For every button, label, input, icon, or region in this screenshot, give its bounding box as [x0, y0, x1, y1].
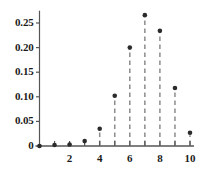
y-tick-label: 0	[28, 140, 33, 151]
data-point	[52, 143, 57, 148]
data-point	[97, 126, 102, 131]
y-tick-label: 0.10	[15, 91, 33, 102]
data-point	[37, 144, 42, 149]
x-tick-label: 10	[175, 153, 203, 164]
data-point	[188, 130, 193, 135]
data-point	[128, 45, 133, 50]
x-tick-label: 8	[145, 153, 175, 164]
data-point	[143, 13, 148, 18]
y-tick-label: 0.25	[15, 17, 33, 28]
data-point	[112, 94, 117, 99]
data-point	[173, 86, 178, 91]
data-point	[158, 29, 163, 34]
x-tick-label: 6	[115, 153, 145, 164]
probability-stem-chart: 00.050.100.150.200.25 246810	[0, 0, 203, 172]
x-tick-label: 4	[85, 153, 115, 164]
x-tick-label: 2	[55, 153, 85, 164]
data-point	[82, 139, 87, 144]
data-point	[67, 142, 72, 147]
stem-lines	[100, 18, 190, 145]
y-tick-label: 0.05	[15, 115, 33, 126]
y-tick-label: 0.20	[15, 42, 33, 53]
y-tick-label: 0.15	[15, 66, 33, 77]
axis-ticks	[36, 23, 190, 146]
